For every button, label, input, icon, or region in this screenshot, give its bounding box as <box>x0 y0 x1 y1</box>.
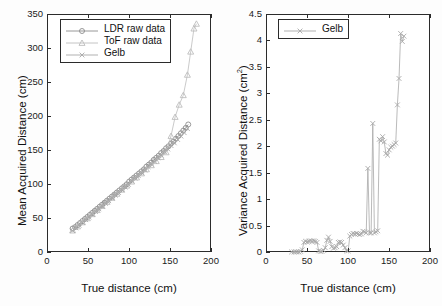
legend-item-label: ToF raw data <box>104 36 162 46</box>
right-legend: Gelb <box>278 19 349 39</box>
x-tick-mark <box>129 248 130 252</box>
y-tick-mark <box>266 252 270 253</box>
right-y-axis-title-prefix: Variance Acquired Distance (cm <box>237 73 249 236</box>
y-tick-label: 300 <box>13 43 43 53</box>
legend-item: LDR raw data <box>65 23 165 35</box>
legend-item: ToF raw data <box>65 35 165 47</box>
triangle-marker <box>65 35 99 47</box>
right-y-axis-title: Variance Acquired Distance (cm2) <box>235 65 249 236</box>
right-y-axis-title-exponent: 2 <box>235 69 244 73</box>
left-y-axis-title: Mean Acquired Distance (cm) <box>16 75 28 226</box>
y-tick-mark <box>266 173 270 174</box>
y-tick-mark <box>47 218 51 219</box>
x-tick-mark-top <box>129 14 130 18</box>
x-tick-mark <box>307 248 308 252</box>
x-tick-mark <box>170 248 171 252</box>
legend-item: Gelb <box>283 23 343 35</box>
figure-container: 050100150200250300350 050100150200 True … <box>0 0 442 306</box>
x-tick-mark-top <box>348 14 349 18</box>
y-tick-mark <box>47 150 51 151</box>
x-tick-mark <box>348 248 349 252</box>
x-tick-label: 100 <box>333 256 363 266</box>
right-plot-area <box>266 14 430 252</box>
y-tick-mark <box>47 116 51 117</box>
left-legend: LDR raw dataToF raw dataGelb <box>60 19 171 63</box>
legend-item-label: LDR raw data <box>104 24 165 34</box>
x-tick-mark-top <box>170 14 171 18</box>
y-tick-mark <box>266 40 270 41</box>
right-x-axis-title: True distance (cm) <box>266 282 430 294</box>
x-tick-mark-top <box>211 14 212 18</box>
left-chart-panel: 050100150200250300350 050100150200 True … <box>0 0 221 306</box>
legend-item-label: Gelb <box>322 24 343 34</box>
x-marker <box>283 23 317 35</box>
y-tick-mark <box>47 82 51 83</box>
right-chart-panel: 00.511.522.533.544.5 050100150200 True d… <box>221 0 442 306</box>
x-tick-mark <box>88 248 89 252</box>
x-tick-mark <box>389 248 390 252</box>
x-tick-label: 0 <box>32 256 62 266</box>
y-tick-label: 4.5 <box>232 9 262 19</box>
y-tick-mark <box>266 67 270 68</box>
y-tick-mark <box>266 226 270 227</box>
x-tick-mark <box>47 248 48 252</box>
right-series-layer <box>267 15 431 253</box>
x-marker <box>65 47 99 59</box>
circle-marker <box>65 23 99 35</box>
x-tick-label: 100 <box>114 256 144 266</box>
legend-item-label: Gelb <box>104 48 125 58</box>
x-tick-label: 50 <box>73 256 103 266</box>
right-y-axis-title-suffix: ) <box>237 65 249 69</box>
x-tick-mark <box>211 248 212 252</box>
x-tick-label: 200 <box>415 256 442 266</box>
y-tick-mark <box>266 120 270 121</box>
y-tick-mark <box>266 146 270 147</box>
x-tick-mark <box>266 248 267 252</box>
x-tick-mark-top <box>389 14 390 18</box>
x-tick-mark <box>430 248 431 252</box>
x-tick-label: 50 <box>292 256 322 266</box>
x-tick-label: 150 <box>155 256 185 266</box>
x-tick-mark-top <box>266 14 267 18</box>
y-tick-mark <box>47 252 51 253</box>
legend-item: Gelb <box>65 47 165 59</box>
x-tick-label: 0 <box>251 256 281 266</box>
y-tick-mark <box>266 93 270 94</box>
y-tick-label: 350 <box>13 9 43 19</box>
x-tick-label: 150 <box>374 256 404 266</box>
x-tick-mark-top <box>307 14 308 18</box>
x-tick-mark-top <box>430 14 431 18</box>
y-tick-mark <box>47 48 51 49</box>
y-tick-mark <box>266 199 270 200</box>
x-tick-mark-top <box>47 14 48 18</box>
y-tick-label: 4 <box>232 35 262 45</box>
series-gelb <box>289 31 406 254</box>
x-tick-mark-top <box>88 14 89 18</box>
y-tick-mark <box>47 184 51 185</box>
left-x-axis-title: True distance (cm) <box>47 282 211 294</box>
